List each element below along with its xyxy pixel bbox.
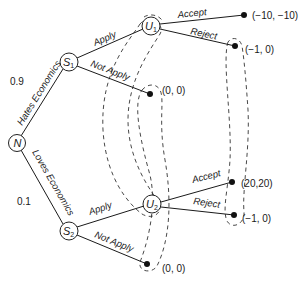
- node-nature: N: [9, 135, 26, 152]
- node-u1: U1: [142, 17, 160, 35]
- prob-loves: 0.1: [17, 196, 31, 207]
- label-u2-reject: Reject: [193, 195, 222, 210]
- node-s1: S1: [60, 53, 78, 71]
- payoff-u2-accept: (20,20): [241, 178, 273, 189]
- label-hates: Hates Economics: [14, 58, 63, 127]
- label-u2-accept: Accept: [190, 167, 222, 185]
- label-u1-accept: Accept: [176, 6, 207, 20]
- edge-u2-reject: [161, 207, 234, 215]
- svg-text:N: N: [14, 137, 22, 149]
- edges: [21, 15, 244, 264]
- terminal-u1-accept: [241, 12, 247, 18]
- node-u2: U2: [143, 195, 161, 213]
- information-sets: [103, 15, 249, 271]
- terminals: [144, 12, 247, 267]
- terminal-u2-accept: [229, 179, 235, 185]
- payoff-u1-reject: (−1, 0): [245, 44, 274, 55]
- terminal-s1-not-apply: [147, 91, 153, 97]
- label-s1-apply: Apply: [91, 28, 119, 48]
- payoff-s1-not-apply: (0, 0): [162, 85, 185, 96]
- node-s2: S2: [60, 222, 78, 240]
- terminal-u2-reject: [231, 212, 237, 218]
- terminal-s2-not-apply: [144, 261, 150, 267]
- payoff-s2-not-apply: (0, 0): [162, 263, 185, 274]
- game-tree: N S1 S2 U1 U2 Hates Economics Loves Econ…: [0, 0, 303, 284]
- label-s2-apply: Apply: [86, 199, 114, 218]
- info-set-not-apply: [138, 85, 169, 271]
- terminal-u1-reject: [232, 43, 238, 49]
- payoff-u1-accept: (−10, −10): [252, 10, 298, 21]
- info-set-reject: [225, 39, 248, 226]
- payoff-u2-reject: (−1, 0): [242, 213, 271, 224]
- prob-hates: 0.9: [10, 76, 24, 87]
- info-set-u1-u2: [103, 20, 161, 217]
